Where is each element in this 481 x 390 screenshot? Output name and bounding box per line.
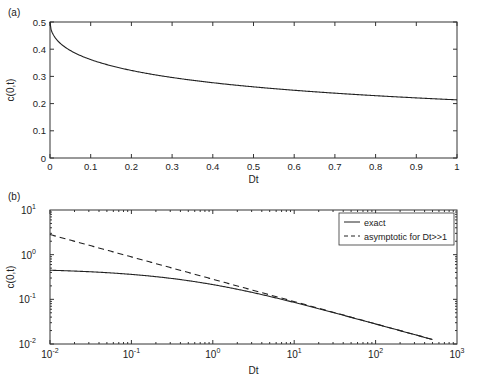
y-axis-label-b: c(0,t) [5, 266, 16, 289]
series-exact-b [50, 270, 433, 339]
panel-a-label: (a) [8, 7, 20, 18]
y-tick-label: 0 [41, 153, 46, 164]
panel-a: (a)00.10.20.30.40.50.60.70.80.9100.10.20… [5, 7, 460, 185]
x-tick-label: 0.7 [328, 161, 341, 172]
x-tick-label: 102 [368, 347, 383, 360]
x-tick-label: 10-1 [123, 347, 140, 360]
x-tick-label: 100 [205, 347, 220, 360]
y-tick-label: 0.2 [33, 98, 46, 109]
y-tick-label: 0.5 [33, 17, 46, 28]
y-axis-label-a: c(0,t) [5, 79, 16, 102]
x-tick-label: 0.3 [165, 161, 178, 172]
legend: exactasymptotic for Dt>>1 [339, 213, 454, 245]
series-exact-a [50, 22, 457, 100]
y-tick-label: 10-1 [19, 292, 36, 305]
y-tick-label: 0.4 [33, 44, 46, 55]
panel-b: (b)10-210-110010110210310-210-1100101Dtc… [5, 191, 465, 376]
y-tick-label: 101 [21, 203, 36, 216]
panel-b-label: (b) [8, 191, 20, 202]
x-tick-label: 0.8 [369, 161, 382, 172]
x-tick-label: 10-2 [41, 347, 58, 360]
legend-exact-label: exact [364, 218, 386, 228]
x-tick-label: 0.9 [410, 161, 423, 172]
x-tick-label: 0.2 [125, 161, 138, 172]
x-tick-label: 101 [287, 347, 302, 360]
x-tick-label: 103 [449, 347, 464, 360]
x-tick-label: 0 [47, 161, 52, 172]
x-axis-label-a: Dt [249, 174, 259, 185]
x-tick-label: 0.1 [84, 161, 97, 172]
y-tick-label: 0.1 [33, 125, 46, 136]
x-tick-label: 1 [454, 161, 459, 172]
y-tick-label: 0.3 [33, 71, 46, 82]
x-tick-label: 0.5 [247, 161, 260, 172]
legend-asymptotic-label: asymptotic for Dt>>1 [364, 232, 447, 242]
x-axis-label-b: Dt [249, 365, 259, 376]
y-tick-label: 100 [21, 248, 36, 261]
x-tick-label: 0.4 [206, 161, 219, 172]
y-tick-label: 10-2 [19, 337, 36, 350]
figure: (a)00.10.20.30.40.50.60.70.80.9100.10.20… [0, 0, 481, 390]
x-tick-label: 0.6 [288, 161, 301, 172]
axes-box-a [50, 22, 457, 158]
